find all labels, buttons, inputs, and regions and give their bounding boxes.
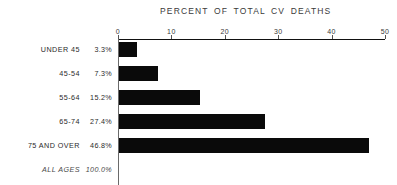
bar-row: UNDER 453.3%: [0, 42, 397, 57]
x-tick-label: 20: [221, 28, 230, 35]
value-label: 27.4%: [82, 117, 112, 126]
x-tick-label: 50: [381, 28, 390, 35]
category-label: 45-54: [0, 69, 80, 78]
bar-row: 55-6415.2%: [0, 90, 397, 105]
x-tick-label: 0: [116, 28, 120, 35]
x-tick-label: 30: [274, 28, 283, 35]
bar: [119, 90, 200, 105]
category-label: UNDER 45: [0, 45, 80, 54]
bar-chart: PERCENT OF TOTAL CV DEATHS 01020304050 U…: [0, 0, 397, 185]
bar-row: 65-7427.4%: [0, 114, 397, 129]
value-label: 46.8%: [82, 141, 112, 150]
bar-row: 45-547.3%: [0, 66, 397, 81]
category-label: ALL AGES: [0, 165, 80, 174]
category-label: 65-74: [0, 117, 80, 126]
value-label: 3.3%: [82, 45, 112, 54]
category-label: 75 AND OVER: [0, 141, 80, 150]
bar-row: 75 AND OVER46.8%: [0, 138, 397, 153]
x-tick-mark: [118, 35, 119, 39]
x-tick-mark: [171, 35, 172, 39]
x-tick-mark: [385, 35, 386, 39]
x-tick-mark: [278, 35, 279, 39]
value-label: 7.3%: [82, 69, 112, 78]
x-tick-label: 40: [327, 28, 336, 35]
bar: [119, 114, 265, 129]
x-axis-line: [118, 39, 385, 40]
x-tick-label: 10: [167, 28, 176, 35]
x-tick-mark: [225, 35, 226, 39]
category-label: 55-64: [0, 93, 80, 102]
bar: [119, 66, 158, 81]
bar: [119, 42, 137, 57]
bar: [119, 138, 369, 153]
x-tick-mark: [332, 35, 333, 39]
value-label: 15.2%: [82, 93, 112, 102]
value-label: 100.0%: [82, 165, 112, 174]
bar-row: ALL AGES100.0%: [0, 162, 397, 177]
